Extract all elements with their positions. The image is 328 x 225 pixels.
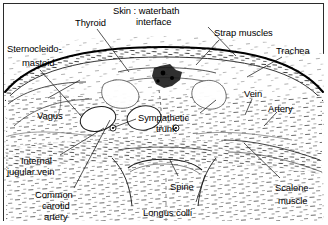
label-internal_jugular_vein_2: jugular vein [7, 167, 54, 177]
label-sympathetic_trunk: Sympathetic [138, 113, 189, 123]
label-sympathetic_trunk_2: trunk [156, 124, 177, 134]
label-skin_waterbath_2: interface [136, 17, 172, 27]
label-common_carotid_artery: Common [35, 190, 73, 200]
label-internal_jugular_vein: Internal [21, 156, 52, 166]
label-strap_muscles: Strap muscles [214, 28, 273, 38]
label-vein: Vein [244, 89, 262, 99]
label-longus_colli: Longus colli [143, 208, 192, 218]
label-trachea: Trachea [276, 46, 310, 56]
label-common_carotid_artery_3: artery [44, 212, 68, 222]
label-scalene_muscle_2: muscle [278, 196, 307, 206]
label-sternocleidomastoid: Sternocleido- [7, 44, 62, 54]
ultrasound-anatomy-figure: ThyroidSkin : waterbathinterfaceStrap mu… [0, 0, 328, 225]
label-common_carotid_artery_2: carotid [42, 201, 70, 211]
label-sternocleidomastoid_2: mastoid [22, 58, 54, 68]
label-skin_waterbath: Skin : waterbath [113, 6, 179, 16]
label-scalene_muscle: Scalene [275, 183, 309, 193]
label-thyroid: Thyroid [75, 18, 106, 28]
label-vagus: Vagus [37, 111, 63, 121]
label-spine: Spine [170, 182, 194, 192]
label-artery: Artery [268, 104, 293, 114]
